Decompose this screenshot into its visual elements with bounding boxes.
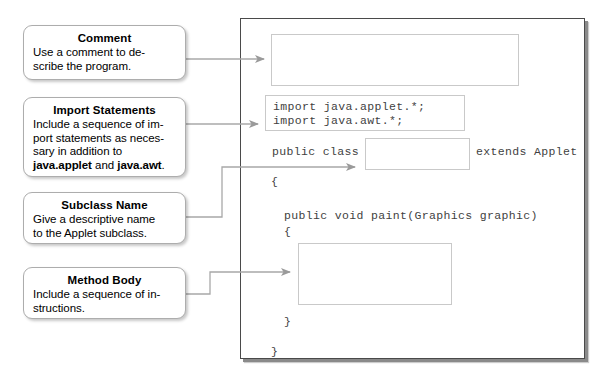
callout-subclass-line-1: Give a descriptive name	[33, 213, 176, 227]
callout-method-body[interactable]: Method Body Include a sequence of in- st…	[23, 267, 186, 319]
method-body-placeholder-box[interactable]	[298, 243, 452, 305]
paint-close-brace: }	[284, 315, 291, 328]
callout-methodbody-line-1: Include a sequence of in-	[33, 288, 176, 302]
paint-method-signature: public void paint(Graphics graphic)	[284, 209, 538, 222]
callout-subclass-title: Subclass Name	[33, 198, 176, 212]
callout-import-statements[interactable]: Import Statements Include a sequence of …	[23, 97, 186, 177]
callout-import-line-2: port statements as neces-	[33, 132, 176, 146]
callout-import-body: Include a sequence of im- port statement…	[33, 118, 176, 172]
callout-import-title: Import Statements	[33, 103, 176, 117]
callout-comment-line-2: scribe the program.	[33, 60, 176, 74]
callout-methodbody-body: Include a sequence of in- structions.	[33, 288, 176, 315]
callout-import-line-1: Include a sequence of im-	[33, 118, 176, 132]
import-pkg-applet: java.applet	[33, 159, 92, 171]
paint-open-brace: {	[284, 225, 291, 238]
import-conjunction: and	[92, 159, 117, 171]
class-name-placeholder-box[interactable]	[365, 138, 470, 170]
callout-import-line-3: sary in addition to	[33, 145, 176, 159]
diagram-root: import java.applet.*; import java.awt.*;…	[0, 0, 591, 381]
class-decl-suffix: extends Applet	[476, 145, 578, 158]
callout-comment-title: Comment	[33, 31, 176, 45]
class-decl-prefix: public class	[272, 145, 359, 158]
import-line-2: import java.awt.*;	[273, 114, 404, 127]
callout-import-line-4: java.applet and java.awt.	[33, 159, 176, 173]
callout-subclass-name[interactable]: Subclass Name Give a descriptive name to…	[23, 192, 186, 244]
callout-comment-line-1: Use a comment to de-	[33, 46, 176, 60]
import-statements-box[interactable]: import java.applet.*; import java.awt.*;	[265, 95, 465, 131]
class-close-brace: }	[271, 345, 278, 358]
callout-comment-body: Use a comment to de- scribe the program.	[33, 46, 176, 73]
callout-subclass-line-2: to the Applet subclass.	[33, 227, 176, 241]
import-line-1: import java.applet.*;	[273, 100, 425, 113]
class-open-brace: {	[271, 175, 278, 188]
callout-methodbody-line-2: structions.	[33, 302, 176, 316]
import-period: .	[162, 159, 165, 171]
callout-comment[interactable]: Comment Use a comment to de- scribe the …	[23, 25, 186, 80]
comment-placeholder-box[interactable]	[271, 34, 519, 86]
import-pkg-awt: java.awt	[117, 159, 161, 171]
callout-methodbody-title: Method Body	[33, 273, 176, 287]
callout-subclass-body: Give a descriptive name to the Applet su…	[33, 213, 176, 240]
code-panel: import java.applet.*; import java.awt.*;…	[240, 18, 585, 359]
